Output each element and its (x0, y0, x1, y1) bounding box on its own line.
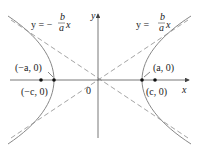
asymptote-neg-label: y = − b a x (31, 11, 71, 33)
pos-focus-point (153, 78, 157, 82)
svg-text:b: b (160, 11, 165, 22)
svg-text:y = −: y = − (31, 19, 53, 30)
svg-text:y =: y = (136, 19, 150, 30)
y-axis-label: y (90, 10, 96, 21)
svg-text:a: a (59, 22, 64, 33)
pos-vertex-pointer (144, 72, 150, 77)
svg-text:x: x (65, 19, 71, 30)
neg-vertex-label: (−a, 0) (15, 62, 42, 74)
x-axis-label: x (181, 84, 187, 95)
pos-vertex-point (140, 78, 144, 82)
hyperbola-diagram: y x 0 (−a, 0) (a, 0) (−c, 0) (c, 0) y = … (0, 0, 203, 160)
neg-focus-label: (−c, 0) (21, 86, 48, 98)
neg-vertex-point (52, 78, 56, 82)
pos-vertex-label: (a, 0) (153, 62, 174, 74)
svg-text:a: a (159, 22, 164, 33)
asymptote-pos-label: y = b a x (136, 11, 171, 33)
neg-focus-point (39, 78, 43, 82)
neg-vertex-pointer (48, 72, 53, 77)
origin-label: 0 (86, 85, 91, 96)
pos-focus-label: (c, 0) (146, 86, 167, 98)
svg-text:b: b (60, 11, 65, 22)
svg-text:x: x (165, 19, 171, 30)
